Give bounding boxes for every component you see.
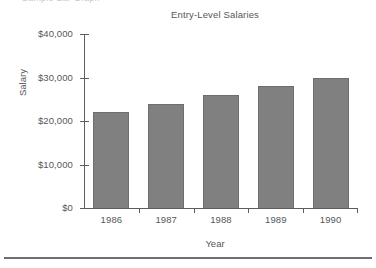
chart-title-text: Entry-Level Salaries [171,9,259,20]
x-tick-label-1990: 1990 [320,214,342,225]
plot-area: $40,000 $30,000 $20,000 $10,000 $0 1986 … [84,34,358,208]
y-tick-0: $0 [80,208,89,209]
bar-slot: 1989 [248,34,303,208]
x-tick-label-1987: 1987 [155,214,177,225]
x-tick-label-1988: 1988 [210,214,232,225]
x-axis-title-text: Year [205,238,224,249]
x-tick-boundary-5 [357,208,358,213]
clipped-caption: Sample Bar Graph [22,0,322,3]
x-tick-boundary-4 [303,208,304,213]
bar-slot: 1986 [84,34,139,208]
x-axis-title: Year [0,238,376,249]
bar-1988[interactable] [203,95,239,208]
y-tick-label-30000: $30,000 [38,72,73,83]
bar-slot: 1990 [303,34,358,208]
bar-1990[interactable] [313,78,349,209]
bar-1986[interactable] [93,112,129,208]
x-tick-label-1989: 1989 [265,214,287,225]
bar-1987[interactable] [148,104,184,208]
x-axis-line [84,208,358,209]
x-tick-label-1986: 1986 [101,214,123,225]
bar-1989[interactable] [258,86,294,208]
y-tick-label-0: $0 [62,202,73,213]
bar-slot: 1988 [194,34,249,208]
x-tick-boundary-3 [248,208,249,213]
y-tick-label-10000: $10,000 [38,159,73,170]
bar-series: 1986 1987 1988 1989 1990 [84,34,358,208]
y-axis-title: Salary [17,69,28,96]
y-tick-label-40000: $40,000 [38,28,73,39]
chart-title: Entry-Level Salaries [0,9,376,20]
y-tick-label-20000: $20,000 [38,115,73,126]
bottom-divider [4,257,372,259]
x-tick-boundary-1 [139,208,140,213]
x-tick-boundary-2 [194,208,195,213]
bar-slot: 1987 [139,34,194,208]
